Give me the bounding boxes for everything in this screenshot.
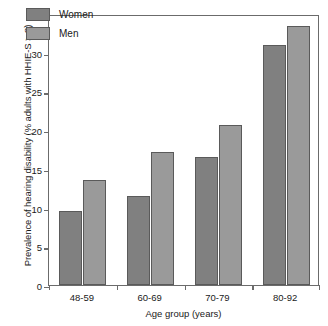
bar-women-48-59: [59, 211, 82, 285]
bar-men-60-69: [151, 152, 174, 285]
legend-item-men: Men: [26, 27, 93, 40]
legend: WomenMen: [26, 8, 93, 46]
y-axis-tick-label: 15: [20, 164, 42, 175]
x-axis-tick-label: 48-59: [70, 292, 94, 303]
y-axis-tick-label: 5: [20, 242, 42, 253]
y-axis-tick: [44, 248, 49, 249]
bar-women-60-69: [127, 196, 150, 285]
y-axis-tick: [44, 55, 49, 56]
y-axis-tick-label: 0: [20, 281, 42, 292]
legend-label-men: Men: [59, 28, 78, 39]
y-axis-tick: [44, 210, 49, 211]
x-axis-tick: [117, 285, 118, 290]
bar-men-80-92: [287, 26, 310, 285]
x-axis-tick: [185, 285, 186, 290]
y-axis-tick-label: 30: [20, 48, 42, 59]
bar-men-48-59: [83, 180, 106, 285]
x-axis-tick: [319, 285, 320, 290]
x-axis-tick: [252, 285, 253, 290]
y-axis-tick-label: 10: [20, 203, 42, 214]
y-axis-tick: [44, 132, 49, 133]
plot-area: [48, 15, 319, 286]
legend-label-women: Women: [59, 9, 93, 20]
x-axis-title: Age group (years): [48, 308, 319, 319]
legend-item-women: Women: [26, 8, 93, 21]
x-axis-tick-label: 80-92: [273, 292, 297, 303]
y-axis-tick: [44, 171, 49, 172]
legend-swatch-women: [26, 8, 50, 21]
bar-men-70-79: [219, 125, 242, 285]
bar-women-80-92: [263, 45, 286, 285]
x-axis-tick-label: 60-69: [137, 292, 161, 303]
y-axis-tick-label: 25: [20, 87, 42, 98]
bar-women-70-79: [195, 157, 218, 285]
y-axis-tick: [44, 93, 49, 94]
y-axis-tick-label: 20: [20, 126, 42, 137]
legend-swatch-men: [26, 27, 50, 40]
y-axis-tick-labels: 05101520253035: [18, 0, 42, 326]
x-axis-tick-label: 70-79: [205, 292, 229, 303]
x-axis-tick: [49, 285, 50, 290]
bar-chart: Prevalence of hearing disability (% adul…: [0, 0, 328, 326]
